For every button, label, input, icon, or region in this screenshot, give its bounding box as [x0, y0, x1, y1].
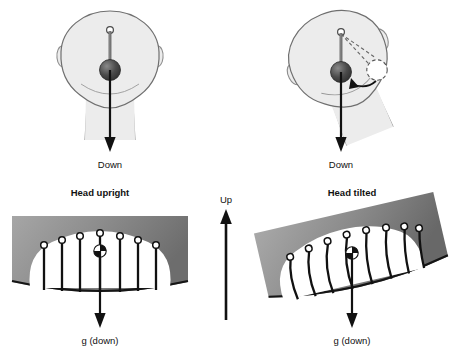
up-reference-arrow: Up — [220, 194, 232, 320]
label-g-down-left: g (down) — [82, 335, 119, 346]
figure-root: Down — [0, 0, 451, 357]
title-head-tilted: Head tilted — [328, 187, 377, 198]
panel-head-tilted-pendulum: Down — [272, 0, 420, 170]
label-g-down-right: g (down) — [334, 335, 371, 346]
panel-head-upright-pendulum: Down — [57, 11, 163, 170]
label-down-left: Down — [98, 159, 122, 170]
panel-otolith-head-tilted: Head tilted — [254, 187, 450, 346]
panel-otolith-head-upright: Head upright — [12, 187, 188, 346]
label-up: Up — [220, 194, 232, 205]
label-down-right: Down — [329, 159, 353, 170]
vestibular-otolith-diagram: Down — [0, 0, 451, 357]
title-head-upright: Head upright — [71, 187, 130, 198]
